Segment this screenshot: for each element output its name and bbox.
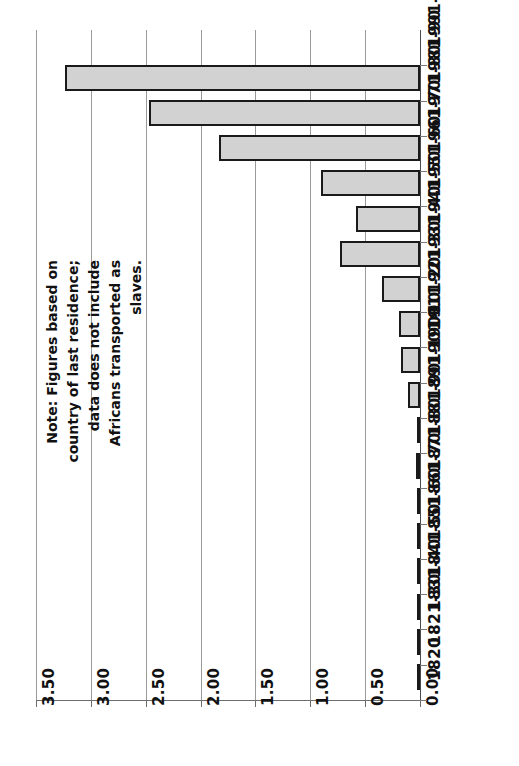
x-tick-label-text: 1.00	[316, 668, 331, 706]
bar-row	[36, 206, 420, 232]
x-tick-label-text: 1.50	[261, 668, 276, 706]
bar-1881-90	[416, 453, 420, 479]
bar-row	[36, 488, 420, 514]
bar-row	[36, 523, 420, 549]
bar-1941-50	[340, 241, 420, 267]
bar-row	[36, 65, 420, 91]
x-tick-label-text: 2.00	[207, 668, 222, 706]
x-tick-2.00	[201, 700, 202, 707]
bar-row	[36, 100, 420, 126]
bar-1831-40	[417, 629, 421, 655]
x-tick-label-text: 0.50	[371, 668, 386, 706]
x-axis-line	[36, 700, 421, 701]
x-tick-1.50	[255, 700, 256, 707]
x-tick-1.00	[310, 700, 311, 707]
bar-1901-10	[408, 382, 420, 408]
bar-1851-60	[417, 558, 421, 584]
gridline-0.00	[420, 30, 421, 700]
category-label-text: 1820	[428, 637, 444, 681]
x-tick-label-text: 3.00	[97, 668, 112, 706]
bar-1841-50	[417, 594, 421, 620]
bar-chart: Note: Figures based on country of last r…	[0, 0, 519, 766]
x-tick-0.00	[420, 700, 421, 707]
bar-1961-70	[321, 170, 420, 196]
category-label-text: 1821-30	[428, 574, 444, 647]
bar-row	[36, 594, 420, 620]
bar-1911-20	[401, 347, 420, 373]
bar-1971-80	[219, 135, 420, 161]
annotation-text: Note: Figures based on country of last r…	[42, 260, 147, 470]
bar-row	[36, 629, 420, 655]
bar-row	[36, 170, 420, 196]
bar-1951-60	[356, 206, 420, 232]
bar-1981-90	[149, 100, 420, 126]
x-tick-0.50	[365, 700, 366, 707]
bar-1921-30	[399, 311, 420, 337]
x-tick-3.00	[91, 700, 92, 707]
bar-row	[36, 664, 420, 690]
bar-1821-30	[417, 664, 421, 690]
bar-row	[36, 558, 420, 584]
x-tick-label-text: 3.50	[42, 668, 57, 706]
y-tick	[420, 700, 427, 701]
x-tick-3.50	[36, 700, 37, 707]
bar-1871-80	[417, 488, 421, 514]
x-tick-2.50	[146, 700, 147, 707]
bar-1931-40	[382, 276, 420, 302]
bar-1891-1900	[417, 417, 421, 443]
bar-1991-96	[65, 65, 420, 91]
x-tick-label-text: 2.50	[152, 668, 167, 706]
bar-1861-70	[417, 523, 421, 549]
bar-row	[36, 135, 420, 161]
